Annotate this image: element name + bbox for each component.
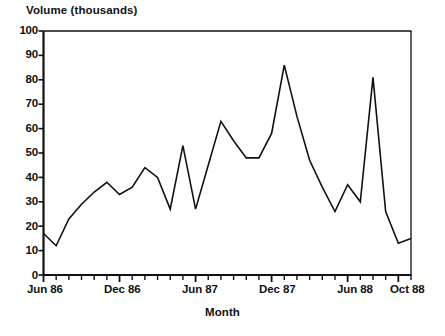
- axes-frame: [43, 31, 412, 276]
- x-tick-label: Dec 87: [259, 283, 295, 295]
- y-tick-label: 20: [4, 220, 38, 232]
- plot-area: [0, 0, 445, 336]
- y-tick-label: 50: [4, 146, 38, 158]
- y-tick-label: 100: [4, 24, 38, 36]
- y-tick-label: 80: [4, 73, 38, 85]
- data-series-line: [44, 65, 412, 246]
- y-tick-label: 90: [4, 48, 38, 60]
- x-axis-title: Month: [0, 306, 445, 318]
- y-tick-label: 10: [4, 244, 38, 256]
- y-tick-label: 40: [4, 171, 38, 183]
- x-tick-label: Jun 87: [182, 283, 218, 295]
- y-tick-label: 30: [4, 195, 38, 207]
- x-tick-label: Oct 88: [390, 283, 425, 295]
- x-tick-label: Dec 86: [104, 283, 140, 295]
- x-tick-label: Jun 88: [337, 283, 373, 295]
- y-tick-label: 60: [4, 122, 38, 134]
- y-axis-title: Volume (thousands): [26, 4, 137, 16]
- y-tick-label: 0: [4, 269, 38, 281]
- y-tick-label: 70: [4, 97, 38, 109]
- x-tick-label: Jun 86: [27, 283, 63, 295]
- line-chart-figure: Volume (thousands) 100 90 80 70 60 50 40…: [0, 0, 445, 336]
